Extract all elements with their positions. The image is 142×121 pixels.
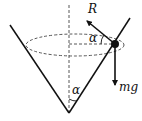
angle-arc-apex xyxy=(69,99,77,101)
weight-label: mg xyxy=(119,81,138,93)
ball xyxy=(111,40,119,48)
angle-label-ball: α xyxy=(89,32,97,44)
cone-force-diagram: R mg α α xyxy=(0,0,142,121)
cone-left-side xyxy=(10,25,69,113)
diagram-canvas xyxy=(0,0,142,121)
angle-label-apex: α xyxy=(72,84,80,96)
circular-path-ellipse xyxy=(26,34,124,56)
reaction-force-label: R xyxy=(88,3,97,15)
